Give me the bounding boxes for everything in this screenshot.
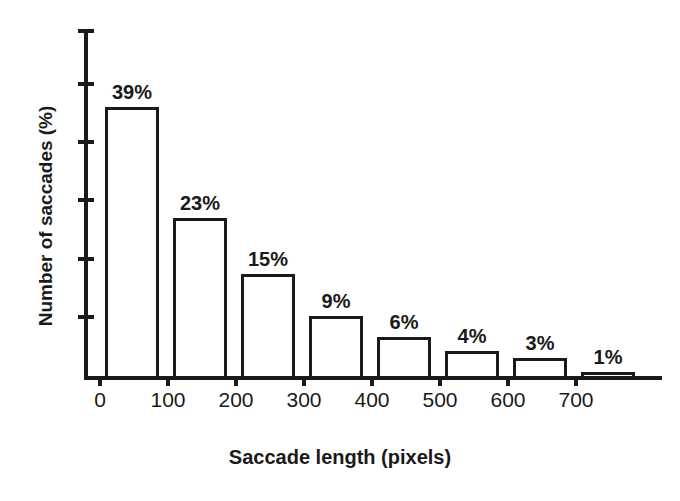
- y-axis-title: Number of saccades (%): [35, 61, 57, 371]
- x-axis-tick: [302, 377, 306, 386]
- bar-0: [105, 107, 159, 379]
- x-tick-label-700: 700: [546, 388, 606, 412]
- x-tick-label-0: 0: [70, 388, 130, 412]
- y-axis-tick: [78, 257, 94, 261]
- bar-chart-figure: 0 100 200 300 400 500 600 700 39% 23% 15…: [0, 0, 680, 501]
- y-axis-tick: [78, 315, 94, 319]
- bar-3: [309, 316, 363, 379]
- x-tick-label-400: 400: [342, 388, 402, 412]
- bar-value-label-1: 23%: [165, 192, 235, 215]
- bar-value-label-4: 6%: [369, 311, 439, 334]
- x-axis-title: Saccade length (pixels): [0, 446, 680, 469]
- x-axis-tick: [574, 377, 578, 386]
- x-tick-label-300: 300: [274, 388, 334, 412]
- x-axis-tick: [438, 377, 442, 386]
- bar-1: [173, 218, 227, 379]
- bar-6: [513, 358, 567, 379]
- bar-5: [445, 351, 499, 379]
- bar-value-label-2: 15%: [233, 248, 303, 271]
- x-axis-tick: [98, 377, 102, 386]
- bar-value-label-5: 4%: [437, 325, 507, 348]
- x-axis-tick: [506, 377, 510, 386]
- x-tick-label-600: 600: [478, 388, 538, 412]
- x-tick-label-500: 500: [410, 388, 470, 412]
- x-axis-tick: [234, 377, 238, 386]
- x-axis-tick: [166, 377, 170, 386]
- bar-value-label-7: 1%: [573, 346, 643, 369]
- y-axis-tick: [78, 140, 94, 144]
- bar-value-label-0: 39%: [97, 81, 167, 104]
- bar-4: [377, 337, 431, 379]
- bar-7: [581, 372, 635, 379]
- bar-2: [241, 274, 295, 379]
- bar-value-label-6: 3%: [505, 332, 575, 355]
- x-tick-label-200: 200: [206, 388, 266, 412]
- x-axis-tick: [370, 377, 374, 386]
- y-axis-tick: [78, 82, 94, 86]
- y-axis-tick: [78, 198, 94, 202]
- bar-value-label-3: 9%: [301, 290, 371, 313]
- x-tick-label-100: 100: [138, 388, 198, 412]
